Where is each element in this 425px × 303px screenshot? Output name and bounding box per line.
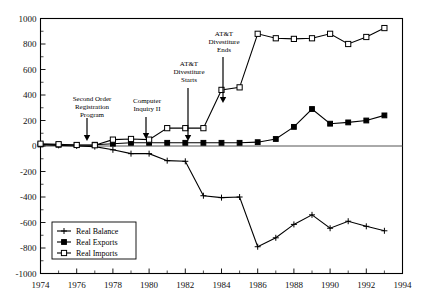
annotation-label: ComputerInquiry II xyxy=(133,97,162,113)
marker-filled-square xyxy=(255,140,260,145)
x-tick-label: 1990 xyxy=(321,280,340,290)
marker-filled-square xyxy=(183,140,188,145)
annotation-line: Second Order xyxy=(73,95,112,103)
annotation-arrow-head xyxy=(84,135,90,141)
chart-figure: -1000-800-600-400-2000200400600800100019… xyxy=(0,0,425,303)
marker-filled-square xyxy=(364,118,369,123)
marker-open-square xyxy=(255,31,260,36)
marker-filled-square xyxy=(346,120,351,125)
marker-open-square xyxy=(201,126,206,131)
marker-filled-square xyxy=(292,124,297,129)
annotation-label: AT&TDivestitureEnds xyxy=(208,30,239,54)
annotation-line: Program xyxy=(80,111,105,119)
x-tick-label: 1974 xyxy=(32,280,51,290)
annotation-line: Divestiture xyxy=(208,38,239,46)
annotation-line: Divestiture xyxy=(173,68,204,76)
annotation-3: AT&TDivestitureStarts xyxy=(173,60,204,141)
annotation-line: Computer xyxy=(133,97,162,105)
x-tick-label: 1992 xyxy=(357,280,375,290)
marker-open-square xyxy=(56,142,61,147)
annotation-label: AT&TDivestitureStarts xyxy=(173,60,204,84)
x-tick-label: 1984 xyxy=(213,280,232,290)
y-tick-label: 800 xyxy=(23,39,37,49)
x-tick-label: 1982 xyxy=(176,280,194,290)
marker-open-square xyxy=(74,142,79,147)
annotation-arrow-head xyxy=(220,97,226,103)
marker-open-square xyxy=(309,36,314,41)
annotation-line: AT&T xyxy=(215,30,234,38)
annotation-line: Ends xyxy=(217,46,231,54)
x-tick-label: 1980 xyxy=(140,280,159,290)
x-tick-label: 1976 xyxy=(68,280,87,290)
marker-open-square xyxy=(346,41,351,46)
x-tick-label: 1986 xyxy=(249,280,268,290)
marker-filled-square xyxy=(62,240,67,245)
marker-filled-square xyxy=(201,140,206,145)
annotation-line: Inquiry II xyxy=(133,105,161,113)
marker-open-square xyxy=(328,31,333,36)
x-tick-label: 1994 xyxy=(394,280,413,290)
annotation-line: Starts xyxy=(181,76,197,84)
marker-filled-square xyxy=(219,140,224,145)
legend-label: Real Imports xyxy=(76,249,118,258)
marker-open-square xyxy=(61,250,66,255)
y-tick-label: 600 xyxy=(23,65,37,75)
marker-open-square xyxy=(128,136,133,141)
marker-filled-square xyxy=(382,113,387,118)
marker-open-square xyxy=(364,34,369,39)
marker-open-square xyxy=(183,126,188,131)
marker-open-square xyxy=(382,25,387,30)
marker-filled-square xyxy=(328,121,333,126)
chart-legend: Real BalanceReal ExportsReal Imports xyxy=(52,222,136,259)
y-tick-label: -1000 xyxy=(16,269,37,279)
annotation-label: Second OrderRegistrationProgram xyxy=(73,95,112,119)
marker-open-square xyxy=(38,141,43,146)
marker-open-square xyxy=(110,137,115,142)
x-tick-label: 1988 xyxy=(285,280,304,290)
y-tick-label: 400 xyxy=(23,90,37,100)
marker-open-square xyxy=(237,85,242,90)
y-tick-label: -400 xyxy=(20,192,37,202)
marker-filled-square xyxy=(310,107,315,112)
y-tick-label: -600 xyxy=(20,218,37,228)
marker-open-square xyxy=(92,143,97,148)
marker-filled-square xyxy=(237,140,242,145)
y-tick-label: 1000 xyxy=(19,14,38,24)
chart-canvas: -1000-800-600-400-2000200400600800100019… xyxy=(0,0,425,303)
y-tick-label: -800 xyxy=(20,243,37,253)
x-tick-label: 1978 xyxy=(104,280,123,290)
marker-open-square xyxy=(147,137,152,142)
annotation-line: AT&T xyxy=(180,60,199,68)
marker-filled-square xyxy=(165,140,170,145)
marker-open-square xyxy=(273,36,278,41)
y-tick-label: -200 xyxy=(20,167,37,177)
marker-open-square xyxy=(291,36,296,41)
y-tick-label: 200 xyxy=(23,116,37,126)
marker-open-square xyxy=(165,126,170,131)
legend-label: Real Exports xyxy=(76,238,118,247)
y-tick-label: 0 xyxy=(32,141,37,151)
annotation-1: Second OrderRegistrationProgram xyxy=(73,95,112,141)
annotation-2: ComputerInquiry II xyxy=(133,97,162,139)
marker-filled-square xyxy=(273,137,278,142)
legend-label: Real Balance xyxy=(76,227,119,236)
annotation-line: Registration xyxy=(75,103,110,111)
